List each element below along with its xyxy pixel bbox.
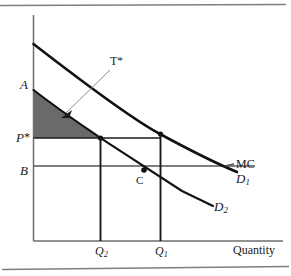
point-marker-c bbox=[141, 167, 147, 173]
curve-label-d2-letter: D bbox=[214, 199, 223, 214]
bottom-rule bbox=[2, 267, 289, 270]
top-rule bbox=[0, 5, 286, 6]
quantity-tick-label-q1-letter: Q bbox=[155, 244, 164, 258]
quantity-tick-label-q2-letter: Q bbox=[95, 244, 104, 258]
economics-diagram-figure: A P* B T* MC D1 D2 C Q2 Q1 Quantity bbox=[0, 0, 291, 276]
price-label-a: A bbox=[20, 78, 28, 91]
point-label-c: C bbox=[136, 175, 143, 186]
annotation-label-t-star-asterisk: * bbox=[117, 54, 123, 66]
quantity-tick-label-q2: Q2 bbox=[95, 245, 108, 257]
curve-label-d1: D1 bbox=[236, 172, 250, 185]
curve-label-d1-subscript: 1 bbox=[245, 177, 249, 187]
curve-label-d1-letter: D bbox=[236, 171, 245, 186]
t-star-leader-line bbox=[66, 70, 110, 113]
point-marker-q1 bbox=[158, 131, 163, 136]
price-label-p-star-letter: P bbox=[16, 130, 24, 145]
curve-label-d2: D2 bbox=[214, 200, 228, 213]
demand-curve-d1 bbox=[34, 44, 238, 172]
point-marker-q2 bbox=[98, 135, 103, 140]
x-axis-label: Quantity bbox=[233, 244, 275, 256]
curve-label-mc: MC bbox=[236, 158, 255, 170]
diagram-canvas bbox=[0, 0, 291, 276]
annotation-label-t-star: T* bbox=[110, 55, 123, 67]
price-label-b: B bbox=[20, 164, 28, 177]
curve-label-d2-subscript: 2 bbox=[223, 205, 227, 215]
quantity-tick-label-q2-subscript: 2 bbox=[104, 250, 108, 259]
quantity-tick-label-q1-subscript: 1 bbox=[164, 250, 168, 259]
quantity-tick-label-q1: Q1 bbox=[155, 245, 168, 257]
price-label-p-star: P* bbox=[16, 131, 30, 144]
price-label-p-star-asterisk: * bbox=[24, 130, 30, 144]
